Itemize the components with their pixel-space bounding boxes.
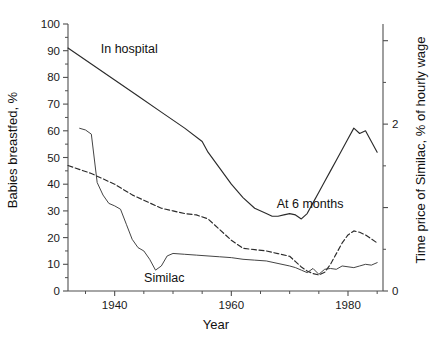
in-hospital-label: In hospital — [101, 42, 158, 56]
dual-axis-line-chart: 0102030405060708090100 02 194019601980 I… — [0, 0, 439, 349]
y2-axis-title: Time price of Similac, % of hourly wage — [413, 36, 428, 263]
y-tick-label: 0 — [54, 285, 60, 297]
y-tick-label: 70 — [47, 98, 60, 110]
chart-background — [0, 0, 439, 349]
y-tick-label: 10 — [47, 258, 60, 270]
y2-tick-label: 2 — [392, 118, 398, 130]
y-tick-label: 60 — [47, 125, 60, 137]
y-axis-title: Babies breastfed, % — [5, 91, 20, 208]
similac-label: Similac — [144, 271, 184, 285]
x-axis-title: Year — [203, 317, 230, 332]
y2-tick-label: 0 — [392, 285, 398, 297]
y-tick-label: 90 — [47, 45, 60, 57]
y-tick-label: 80 — [47, 71, 60, 83]
y-tick-label: 50 — [47, 152, 60, 164]
y-tick-label: 30 — [47, 205, 60, 217]
at-6-months-label: At 6 months — [277, 197, 344, 211]
y-tick-label: 40 — [47, 178, 60, 190]
figure-container: 0102030405060708090100 02 194019601980 I… — [0, 0, 439, 349]
x-tick-label: 1960 — [219, 299, 245, 311]
y-tick-label: 100 — [41, 18, 60, 30]
y-tick-label: 20 — [47, 232, 60, 244]
x-tick-label: 1940 — [102, 299, 128, 311]
x-tick-label: 1980 — [335, 299, 361, 311]
